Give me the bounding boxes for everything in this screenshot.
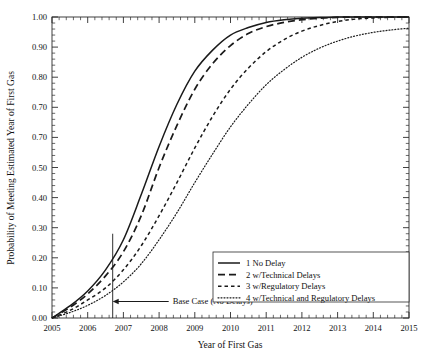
- x-tick-label: 2012: [293, 323, 310, 333]
- legend-label-4: 4 w/Technical and Regulatory Delays: [246, 293, 376, 303]
- legend-label-1: 1 No Delay: [246, 258, 286, 268]
- probability-line-chart: 2005200620072008200920102011201220132014…: [0, 0, 430, 362]
- x-tick-label: 2005: [43, 323, 60, 333]
- y-tick-label: 0.10: [32, 283, 47, 293]
- chart-figure: 2005200620072008200920102011201220132014…: [0, 0, 430, 362]
- x-axis-tick-labels: 2005200620072008200920102011201220132014…: [43, 323, 417, 333]
- x-tick-label: 2006: [79, 323, 97, 333]
- y-tick-label: 0.00: [32, 313, 47, 323]
- y-axis-tick-labels: 0.000.100.200.300.400.500.700.700.800.90…: [32, 12, 47, 323]
- y-axis-title: Probability of Meeting Estimated Year of…: [6, 71, 16, 265]
- y-tick-label: 0.30: [32, 223, 47, 233]
- x-tick-label: 2015: [400, 323, 417, 333]
- x-tick-label: 2007: [115, 323, 133, 333]
- y-tick-label: 0.90: [32, 42, 47, 52]
- y-tick-label: 0.20: [32, 253, 47, 263]
- y-tick-label: 0.80: [32, 72, 47, 82]
- y-tick-label: 0.70: [32, 132, 47, 142]
- x-tick-label: 2014: [365, 323, 383, 333]
- y-tick-label: 0.50: [32, 163, 47, 173]
- x-tick-label: 2013: [329, 323, 346, 333]
- y-tick-label: 1.00: [32, 12, 47, 22]
- y-tick-label: 0.40: [32, 193, 47, 203]
- x-axis-title: Year of First Gas: [198, 340, 263, 350]
- x-tick-label: 2011: [258, 323, 275, 333]
- chart-legend: 1 No Delay2 w/Technical Delays3 w/Regula…: [213, 252, 409, 303]
- y-tick-label: 0.70: [32, 102, 47, 112]
- legend-label-3: 3 w/Regulatory Delays: [246, 281, 326, 291]
- x-tick-label: 2010: [222, 323, 239, 333]
- legend-label-2: 2 w/Technical Delays: [246, 270, 321, 280]
- x-tick-label: 2009: [186, 323, 203, 333]
- x-tick-label: 2008: [151, 323, 168, 333]
